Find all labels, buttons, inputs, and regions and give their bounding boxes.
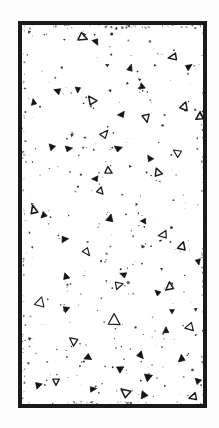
particle-speck xyxy=(99,183,100,184)
particle-speck xyxy=(143,226,145,228)
particle-speck xyxy=(187,395,188,396)
particle-speck xyxy=(141,245,145,249)
particle-grain-outlined xyxy=(175,240,188,250)
particle-speck xyxy=(110,281,111,282)
particle-speck xyxy=(111,235,112,236)
particle-speck xyxy=(105,259,106,260)
particle-speck xyxy=(124,285,125,286)
particle-speck xyxy=(50,216,52,218)
particle-speck xyxy=(108,58,109,59)
particle-speck xyxy=(99,223,100,224)
particle-speck xyxy=(110,149,111,150)
particle-speck xyxy=(110,53,112,55)
particle-speck xyxy=(103,321,104,322)
particle-speck xyxy=(26,253,27,254)
particle-speck xyxy=(129,165,132,168)
particle-speck xyxy=(142,215,143,216)
particle-speck xyxy=(102,177,103,178)
particle-speck xyxy=(170,80,171,81)
particle-speck xyxy=(194,308,198,312)
particle-grain-solid xyxy=(170,310,175,314)
particle-speck xyxy=(25,161,27,163)
particle-grain-solid xyxy=(60,304,70,313)
particle-speck xyxy=(58,235,60,237)
particle-speck xyxy=(137,71,139,73)
particle-grain-outlined xyxy=(82,248,89,256)
particle-speck xyxy=(66,87,67,88)
particle-speck xyxy=(81,361,82,362)
particle-speck xyxy=(165,286,166,287)
particle-speck xyxy=(48,210,49,211)
particle-speck xyxy=(29,324,30,325)
particle-speck xyxy=(105,253,107,255)
particle-speck xyxy=(123,358,125,360)
particle-speck xyxy=(67,284,69,286)
particle-speck xyxy=(47,298,49,300)
specimen-frame xyxy=(18,21,207,408)
particle-grain-outlined xyxy=(182,323,193,331)
particle-speck xyxy=(139,394,140,395)
particle-speck xyxy=(44,384,46,386)
particle-speck xyxy=(127,268,128,269)
particle-speck xyxy=(98,172,99,173)
particle-speck xyxy=(104,366,106,368)
particle-speck xyxy=(70,134,74,138)
particle-grain-solid xyxy=(178,353,189,362)
particle-speck xyxy=(157,53,158,54)
particle-speck xyxy=(35,353,37,355)
particle-speck xyxy=(27,54,28,56)
particle-grain-solid xyxy=(117,111,124,117)
particle-speck xyxy=(58,233,59,234)
particle-speck xyxy=(185,202,186,203)
particle-speck xyxy=(156,180,157,181)
particle-speck xyxy=(71,346,73,348)
particle-speck xyxy=(176,174,177,175)
particle-speck xyxy=(83,137,86,139)
particle-speck xyxy=(41,324,42,325)
particle-speck xyxy=(83,102,85,104)
particle-speck xyxy=(98,392,100,394)
particle-speck xyxy=(83,275,84,276)
particle-grain-outlined xyxy=(78,31,87,41)
particle-grain-outlined xyxy=(100,126,109,138)
particle-speck xyxy=(70,283,72,285)
micrograph-figure xyxy=(0,0,219,428)
particle-speck xyxy=(95,385,97,387)
particle-speck xyxy=(156,377,158,379)
particle-speck xyxy=(174,339,175,340)
particle-speck xyxy=(93,148,95,150)
particle-speck xyxy=(136,203,138,206)
particle-speck xyxy=(114,328,116,330)
particle-speck xyxy=(145,171,148,173)
particle-speck xyxy=(49,82,50,83)
particle-speck xyxy=(161,346,163,348)
particle-speck xyxy=(83,31,84,32)
particle-grain-outlined xyxy=(97,187,103,194)
particle-speck xyxy=(77,185,80,188)
particle-speck xyxy=(202,111,203,113)
particle-grain-outlined xyxy=(31,205,38,213)
particle-speck xyxy=(109,46,110,47)
particle-speck xyxy=(201,124,202,125)
particle-speck xyxy=(196,69,197,70)
particle-speck xyxy=(114,338,115,339)
particle-speck xyxy=(121,194,123,196)
particle-speck xyxy=(101,383,102,384)
particle-speck xyxy=(57,166,58,167)
particle-speck xyxy=(91,353,92,354)
particle-speck xyxy=(150,175,151,176)
particle-speck xyxy=(173,49,175,51)
particle-speck xyxy=(186,355,188,357)
particle-grain-outlined xyxy=(116,389,133,398)
particle-grain-solid xyxy=(106,214,113,222)
fine-speck-group xyxy=(24,30,199,397)
particle-speck xyxy=(151,102,152,103)
particle-speck xyxy=(97,310,98,311)
particle-speck xyxy=(126,82,129,85)
particle-speck xyxy=(66,350,67,351)
particle-speck xyxy=(46,361,48,363)
particle-grain-outlined xyxy=(70,338,81,347)
particle-speck xyxy=(170,226,173,229)
particle-speck xyxy=(31,161,33,163)
particle-grain-solid xyxy=(81,354,92,363)
